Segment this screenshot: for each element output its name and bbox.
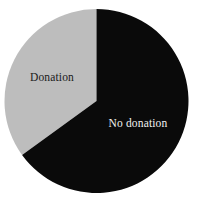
pie-chart-figure: Donation No donation (0, 0, 199, 207)
pie-chart-canvas (0, 0, 199, 207)
pie-slice-group (4, 9, 188, 193)
